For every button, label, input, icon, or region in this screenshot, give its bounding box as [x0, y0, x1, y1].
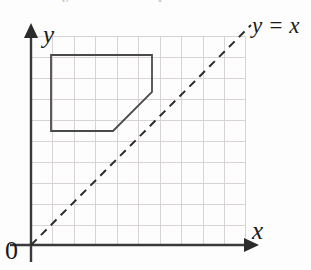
- y-axis-arrow-icon: [24, 23, 38, 38]
- x-axis-label: x: [252, 218, 263, 243]
- y-axis: [24, 23, 38, 262]
- graph-figure: y x: [0, 0, 311, 270]
- y-axis-label: y: [43, 22, 54, 47]
- origin-label: 0: [5, 238, 18, 264]
- line-equation-label: y = x: [252, 14, 299, 37]
- x-axis: [10, 238, 259, 252]
- line-y-equals-x: [31, 25, 251, 245]
